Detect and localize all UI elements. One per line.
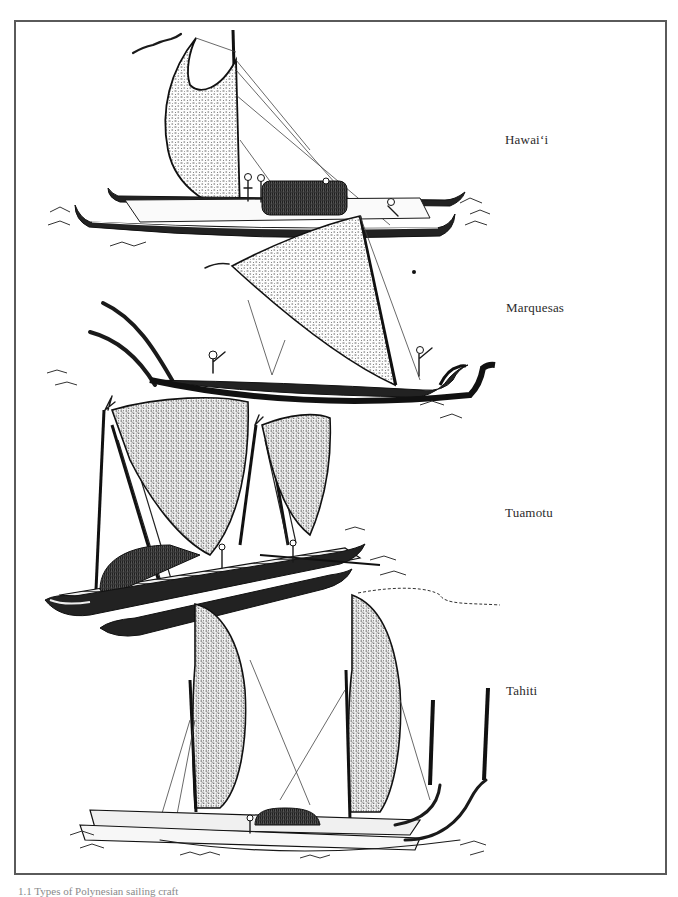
canoe-hawaii <box>48 30 490 246</box>
label-tahiti: Tahiti <box>506 683 537 699</box>
label-marquesas: Marquesas <box>506 300 564 316</box>
figure-caption: 1.1 Types of Polynesian sailing craft <box>18 885 178 897</box>
label-tuamotu: Tuamotu <box>505 505 553 521</box>
canoe-tuamotu <box>45 396 500 636</box>
canoe-marquesas <box>47 216 495 418</box>
label-hawaii: Hawai‘i <box>505 132 548 148</box>
